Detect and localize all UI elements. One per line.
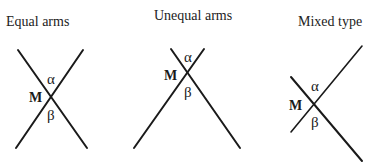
panel-title: Equal arms: [6, 14, 69, 29]
panel-unequal-arms: Unequal arms M α β: [134, 8, 240, 148]
angle-label-alpha: α: [184, 49, 192, 65]
panel-equal-arms: Equal arms M α β: [6, 14, 87, 148]
panel-mixed-type: Mixed type M α β: [289, 14, 362, 161]
angle-label-beta: β: [184, 84, 192, 100]
angle-label-beta: β: [311, 114, 319, 130]
angle-label-beta: β: [47, 107, 55, 123]
panel-title: Unequal arms: [154, 8, 232, 23]
line-arm-2: [134, 49, 204, 148]
panel-title: Mixed type: [298, 14, 362, 29]
point-label-m: M: [289, 98, 302, 113]
point-label-m: M: [29, 90, 42, 105]
line-arm-2: [16, 50, 83, 148]
line-arm-1: [171, 49, 240, 148]
angle-label-alpha: α: [47, 71, 55, 87]
crossing-diagrams: Equal arms M α β Unequal arms M α β Mixe…: [0, 0, 383, 166]
point-label-m: M: [164, 68, 177, 83]
angle-label-alpha: α: [311, 78, 319, 94]
